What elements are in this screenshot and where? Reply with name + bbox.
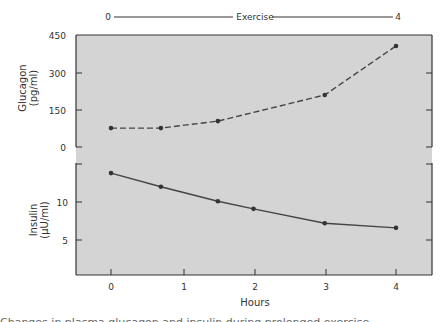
data-point — [216, 199, 221, 204]
svg-text:Glucagon: Glucagon — [17, 64, 28, 111]
x-tick-0: 0 — [108, 282, 114, 292]
insulin-ylabel: Insulin (μU/ml) — [28, 201, 50, 238]
svg-text:Insulin: Insulin — [28, 204, 39, 237]
glucagon-tick-450: 450 — [49, 31, 66, 41]
data-point — [322, 221, 327, 226]
exercise-label: Exercise — [236, 12, 274, 22]
x-tick-1: 1 — [181, 282, 187, 292]
exercise-bar: 0 Exercise 4 — [105, 12, 401, 22]
data-point — [109, 126, 114, 131]
glucagon-tick-0: 0 — [60, 143, 66, 153]
exercise-end-label: 4 — [395, 12, 401, 22]
chart: 0 Exercise 4 450 300 150 0 Glucagon (pg/… — [0, 0, 448, 322]
insulin-tick-5: 5 — [62, 236, 68, 246]
svg-text:(μU/ml): (μU/ml) — [39, 201, 50, 238]
data-point — [216, 119, 221, 124]
data-point — [394, 44, 399, 49]
insulin-tick-10: 10 — [57, 198, 69, 208]
data-point — [109, 171, 114, 176]
plot-area — [76, 35, 432, 275]
svg-text:(pg/ml): (pg/ml) — [28, 70, 39, 106]
glucagon-tick-150: 150 — [49, 106, 66, 116]
exercise-start-label: 0 — [105, 12, 111, 22]
x-axis-label: Hours — [240, 297, 269, 308]
x-tick-2: 2 — [252, 282, 258, 292]
data-point — [159, 126, 164, 131]
data-point — [251, 207, 256, 212]
x-tick-4: 4 — [393, 282, 399, 292]
glucagon-ylabel: Glucagon (pg/ml) — [17, 64, 39, 111]
data-point — [394, 226, 399, 231]
glucagon-tick-300: 300 — [49, 69, 66, 79]
x-tick-3: 3 — [323, 282, 329, 292]
data-point — [159, 185, 164, 190]
data-point — [322, 93, 327, 98]
caption-fragment: Changes in plasma glucagon and insulin d… — [0, 312, 448, 322]
